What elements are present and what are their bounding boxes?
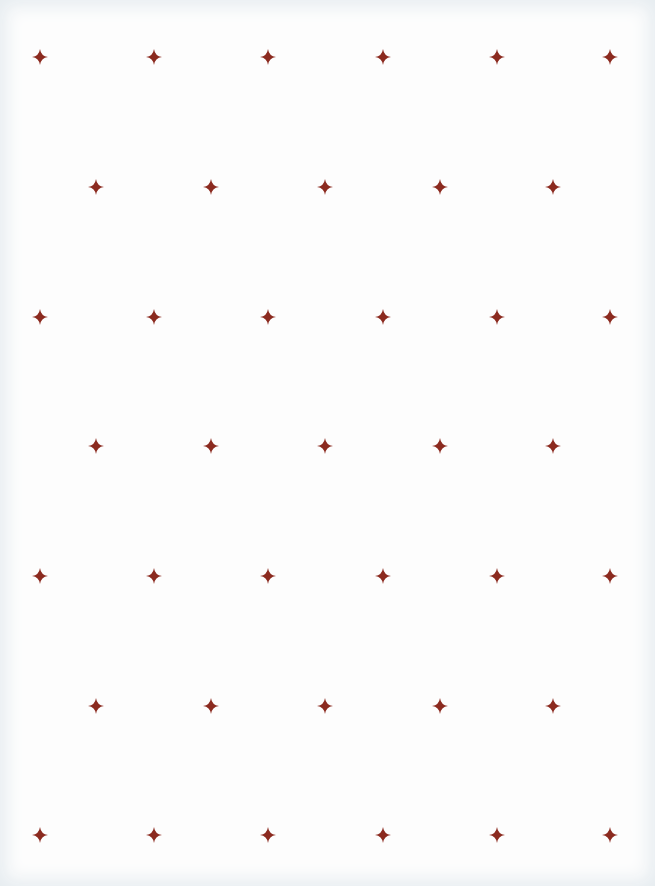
four-point-star-icon <box>203 698 219 714</box>
four-point-star-icon <box>375 827 391 843</box>
four-point-star-icon <box>545 179 561 195</box>
four-point-star-icon <box>602 49 618 65</box>
four-point-star-icon <box>260 568 276 584</box>
four-point-star-icon <box>602 827 618 843</box>
four-point-star-icon <box>260 49 276 65</box>
four-point-star-icon <box>545 698 561 714</box>
four-point-star-icon <box>260 827 276 843</box>
four-point-star-icon <box>317 698 333 714</box>
four-point-star-icon <box>88 698 104 714</box>
four-point-star-icon <box>432 179 448 195</box>
four-point-star-icon <box>32 309 48 325</box>
four-point-star-icon <box>602 568 618 584</box>
four-point-star-icon <box>146 309 162 325</box>
four-point-star-icon <box>489 827 505 843</box>
four-point-star-icon <box>375 49 391 65</box>
four-point-star-icon <box>375 568 391 584</box>
four-point-star-icon <box>88 179 104 195</box>
four-point-star-icon <box>489 309 505 325</box>
four-point-star-icon <box>489 49 505 65</box>
four-point-star-icon <box>32 49 48 65</box>
four-point-star-icon <box>432 698 448 714</box>
four-point-star-icon <box>317 438 333 454</box>
four-point-star-icon <box>489 568 505 584</box>
four-point-star-icon <box>203 179 219 195</box>
four-point-star-icon <box>32 568 48 584</box>
four-point-star-icon <box>260 309 276 325</box>
four-point-star-icon <box>203 438 219 454</box>
four-point-star-icon <box>317 179 333 195</box>
four-point-star-icon <box>146 568 162 584</box>
star-pattern-page <box>0 0 655 886</box>
four-point-star-icon <box>375 309 391 325</box>
four-point-star-icon <box>32 827 48 843</box>
four-point-star-icon <box>602 309 618 325</box>
four-point-star-icon <box>432 438 448 454</box>
four-point-star-icon <box>146 49 162 65</box>
four-point-star-icon <box>88 438 104 454</box>
four-point-star-icon <box>545 438 561 454</box>
four-point-star-icon <box>146 827 162 843</box>
